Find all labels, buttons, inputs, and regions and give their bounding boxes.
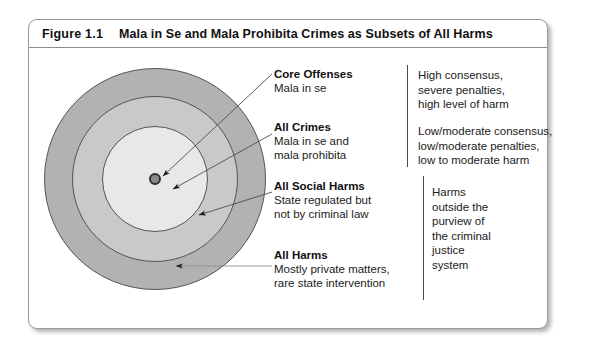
description-core-offenses-line1: High consensus,: [418, 68, 509, 83]
description-all-harms-line3: purview of: [432, 214, 491, 229]
description-all-harms-line1: Harms: [432, 185, 491, 200]
label-desc-all-crimes-line1: Mala in se and: [274, 134, 409, 148]
label-desc-all-social-harms-line1: State regulated but: [274, 193, 409, 207]
description-core-offenses-line2: severe penalties,: [418, 83, 509, 98]
label-desc-all-harms-line2: rare state intervention: [274, 276, 409, 290]
description-all-harms-line5: justice: [432, 243, 491, 258]
label-block-all-crimes: All Crimes Mala in se and mala prohibita: [274, 120, 409, 162]
description-core-offenses: High consensus, severe penalties, high l…: [418, 68, 509, 112]
label-block-all-harms: All Harms Mostly private matters, rare s…: [274, 248, 409, 290]
description-all-crimes: Low/moderate consensus, low/moderate pen…: [418, 124, 552, 168]
description-all-crimes-line3: low to moderate harm: [418, 153, 552, 168]
description-all-crimes-line1: Low/moderate consensus,: [418, 124, 552, 139]
label-desc-all-social-harms-line2: not by criminal law: [274, 207, 409, 221]
figure-title: Mala in Se and Mala Prohibita Crimes as …: [119, 27, 493, 41]
description-core-offenses-line3: high level of harm: [418, 97, 509, 112]
divider-upper: [407, 65, 408, 167]
description-all-harms-line2: outside the: [432, 200, 491, 215]
label-desc-all-crimes-line2: mala prohibita: [274, 148, 409, 162]
description-all-harms: Harms outside the purview of the crimina…: [432, 185, 491, 272]
description-all-crimes-line2: low/moderate penalties,: [418, 139, 552, 154]
label-title-all-harms: All Harms: [274, 248, 409, 262]
label-title-core-offenses: Core Offenses: [274, 67, 409, 81]
label-block-core-offenses: Core Offenses Mala in se: [274, 67, 409, 95]
label-block-all-social-harms: All Social Harms State regulated but not…: [274, 179, 409, 221]
description-all-harms-line4: the criminal: [432, 229, 491, 244]
figure-number: Figure 1.1: [42, 27, 103, 41]
ring-core-offenses: [149, 173, 161, 185]
label-desc-all-harms-line1: Mostly private matters,: [274, 262, 409, 276]
label-title-all-social-harms: All Social Harms: [274, 179, 409, 193]
label-desc-core-offenses-line1: Mala in se: [274, 81, 409, 95]
divider-lower: [423, 176, 424, 300]
figure-panel: Figure 1.1 Mala in Se and Mala Prohibita…: [28, 19, 548, 329]
figure-header: Figure 1.1 Mala in Se and Mala Prohibita…: [29, 20, 547, 48]
concentric-circle-diagram: [44, 68, 266, 290]
label-title-all-crimes: All Crimes: [274, 120, 409, 134]
figure-body: Core Offenses Mala in se All Crimes Mala…: [29, 48, 547, 328]
description-all-harms-line6: system: [432, 258, 491, 273]
